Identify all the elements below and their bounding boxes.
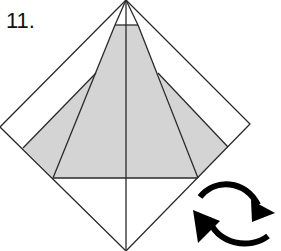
origami-diagram: [0, 0, 281, 251]
rotate-turn-over-icon: [193, 184, 275, 243]
